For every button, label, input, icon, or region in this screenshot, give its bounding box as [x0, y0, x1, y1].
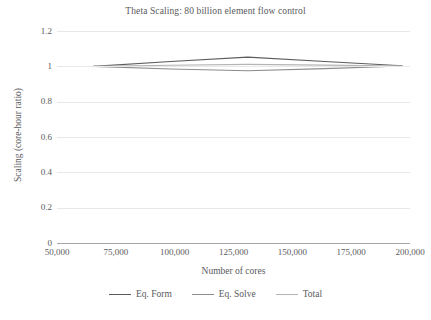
- gridline: [57, 31, 410, 32]
- y-axis-tick-labels: 00.20.40.60.811.2: [0, 31, 52, 243]
- legend-item[interactable]: Eq. Solve: [192, 289, 256, 299]
- legend-item[interactable]: Total: [276, 289, 322, 299]
- y-axis-tick-label: 0.6: [6, 133, 52, 142]
- legend-item-label: Total: [303, 289, 322, 299]
- chart-legend: Eq. FormEq. SolveTotal: [0, 289, 431, 299]
- y-axis-tick-label: 1.2: [6, 27, 52, 36]
- x-axis-tick-label: 100,000: [145, 248, 205, 257]
- chart-container: Theta Scaling: 80 billion element flow c…: [0, 0, 431, 320]
- x-axis-tick-labels: 50,00075,000100,000125,000150,000175,000…: [57, 248, 410, 262]
- x-axis-tick-label: 125,000: [204, 248, 264, 257]
- plot-area: [57, 31, 410, 243]
- x-axis-tick-label: 200,000: [380, 248, 431, 257]
- legend-line-swatch: [276, 294, 298, 295]
- y-axis-tick-label: 0.8: [6, 97, 52, 106]
- legend-line-swatch: [109, 294, 131, 295]
- chart-title: Theta Scaling: 80 billion element flow c…: [0, 6, 431, 16]
- x-axis-tick-label: 175,000: [321, 248, 381, 257]
- y-axis-tick-label: 0.4: [6, 168, 52, 177]
- gridline: [57, 208, 410, 209]
- x-axis-tick-label: 150,000: [262, 248, 322, 257]
- x-axis-title: Number of cores: [57, 266, 410, 276]
- legend-item-label: Eq. Form: [136, 289, 172, 299]
- legend-item-label: Eq. Solve: [219, 289, 256, 299]
- legend-line-swatch: [192, 294, 214, 295]
- gridline: [57, 137, 410, 138]
- x-axis-tick-label: 50,000: [27, 248, 87, 257]
- x-axis-tick-label: 75,000: [86, 248, 146, 257]
- gridline: [57, 102, 410, 103]
- legend-item[interactable]: Eq. Form: [109, 289, 172, 299]
- y-axis-tick-label: 0.2: [6, 203, 52, 212]
- x-axis-line: [57, 243, 410, 244]
- gridline: [57, 66, 410, 67]
- y-axis-tick-label: 1: [6, 62, 52, 71]
- gridline: [57, 172, 410, 173]
